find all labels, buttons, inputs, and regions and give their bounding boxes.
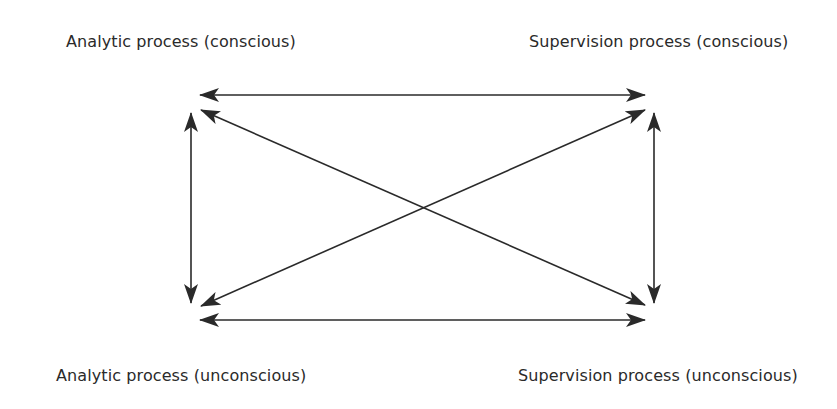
arrows-canvas xyxy=(0,0,837,409)
